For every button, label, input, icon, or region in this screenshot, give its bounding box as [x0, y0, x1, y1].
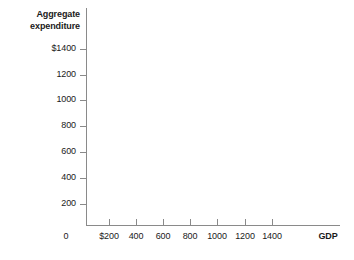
- origin-label: 0: [54, 231, 78, 241]
- y-tick-mark: [80, 49, 86, 50]
- y-tick-mark: [80, 152, 86, 153]
- y-tick-label: 200: [0, 198, 76, 208]
- y-tick-mark: [80, 75, 86, 76]
- x-axis-line: [86, 225, 340, 226]
- y-axis-title: Aggregate expenditure: [0, 9, 80, 32]
- x-tick-mark: [109, 219, 110, 225]
- y-axis-title-line-2: expenditure: [0, 21, 80, 33]
- y-tick-label: $1400: [0, 43, 76, 53]
- y-axis-title-line-1: Aggregate: [0, 9, 80, 21]
- x-tick-mark: [136, 219, 137, 225]
- y-tick-label: 800: [0, 120, 76, 130]
- x-tick-mark: [190, 219, 191, 225]
- y-tick-label: 400: [0, 172, 76, 182]
- x-tick-mark: [217, 219, 218, 225]
- y-tick-label: 1000: [0, 94, 76, 104]
- x-tick-label: 1400: [252, 231, 292, 241]
- y-tick-label: 1200: [0, 69, 76, 79]
- x-axis-title: GDP: [308, 231, 348, 241]
- chart-figure: Aggregate expenditure $14001200100080060…: [0, 0, 354, 260]
- y-tick-mark: [80, 126, 86, 127]
- x-tick-mark: [163, 219, 164, 225]
- y-tick-mark: [80, 204, 86, 205]
- x-tick-mark: [272, 219, 273, 225]
- y-tick-label: 600: [0, 146, 76, 156]
- plot-area: [87, 8, 340, 225]
- x-tick-mark: [245, 219, 246, 225]
- y-tick-mark: [80, 178, 86, 179]
- y-tick-mark: [80, 100, 86, 101]
